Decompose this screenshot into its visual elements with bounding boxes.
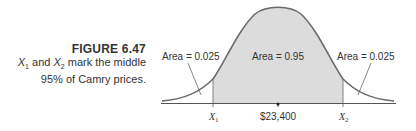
- left-area-leader: [188, 63, 201, 95]
- right-area-label: Area = 0.025: [337, 51, 395, 62]
- x2-label: X2: [338, 111, 349, 124]
- x2-label-sub: 2: [345, 116, 349, 124]
- x1-label-sub: 1: [215, 116, 219, 124]
- normal-curve-diagram: Area = 0.025 Area = 0.95 Area = 0.025 $2…: [0, 0, 416, 131]
- center-area-label: Area = 0.95: [252, 51, 304, 62]
- mean-label: $23,400: [260, 111, 297, 122]
- left-area-label: Area = 0.025: [162, 51, 220, 62]
- x1-label: X1: [208, 111, 219, 124]
- mean-marker: [277, 103, 280, 106]
- right-area-leader: [358, 63, 371, 95]
